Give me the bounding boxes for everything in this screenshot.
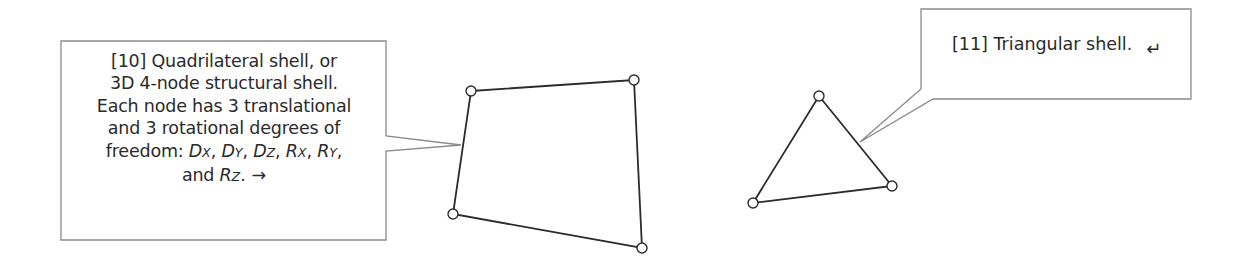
node-icon <box>629 75 639 85</box>
return-arrow-icon: ↵ <box>1146 38 1161 60</box>
callout-11-text: [11] Triangular shell.↵ <box>922 33 1190 55</box>
callout-10-line-3: Each node has 3 translational <box>62 95 386 117</box>
callout-10-line-4: and 3 rotational degrees of <box>62 117 386 139</box>
arrow-right-icon: → <box>252 165 266 185</box>
dof-rz: RZ <box>220 165 241 185</box>
callout-10-text: [10] Quadrilateral shell, or 3D 4-node s… <box>62 50 386 188</box>
quadrilateral-edges <box>453 80 642 248</box>
node-icon <box>814 91 824 101</box>
dof-ry: RY <box>317 141 337 161</box>
dof-dx: DX <box>189 141 211 161</box>
dof-rx: RX <box>286 141 307 161</box>
dof-dy: DY <box>221 141 242 161</box>
callout-10-line-1: [10] Quadrilateral shell, or <box>62 50 386 72</box>
node-icon <box>637 243 647 253</box>
quadrilateral-shell-element <box>448 75 647 253</box>
callout-11-label: [11] Triangular shell. <box>952 34 1132 54</box>
node-icon <box>466 86 476 96</box>
triangle-edges <box>753 96 892 203</box>
callout-11-frame <box>860 9 1191 142</box>
node-icon <box>887 181 897 191</box>
callout-10-line-5: freedom: DX, DY, DZ, RX, RY, <box>62 140 386 164</box>
node-icon <box>448 209 458 219</box>
freedom-prefix: freedom: <box>106 141 189 161</box>
triangular-shell-element <box>748 91 897 208</box>
callout-11-box <box>860 9 1191 142</box>
callout-10-line-6: and RZ.→ <box>62 164 386 188</box>
node-icon <box>748 198 758 208</box>
dof-dz: DZ <box>253 141 275 161</box>
callout-10-line-2: 3D 4-node structural shell. <box>62 72 386 94</box>
